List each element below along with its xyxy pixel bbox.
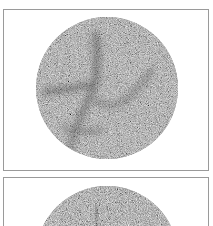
circular-scan-image-top [4,10,209,171]
image-panel-top [3,9,209,171]
circular-scan-image-bottom [4,178,209,226]
image-panel-bottom [3,177,209,226]
